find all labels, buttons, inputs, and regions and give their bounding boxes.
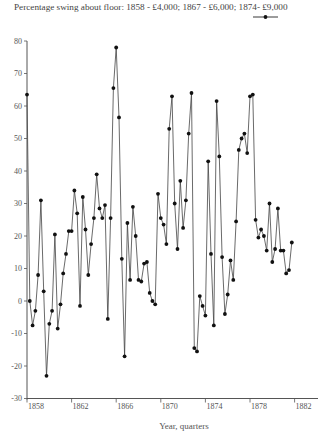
x-tick-label: 1882 — [296, 402, 312, 411]
data-point-marker — [56, 327, 60, 331]
data-point-marker — [226, 293, 230, 297]
data-point-marker — [273, 247, 277, 251]
y-tick-label: -20 — [11, 362, 22, 371]
data-point-marker — [78, 304, 82, 308]
data-point-marker — [220, 255, 224, 259]
data-point-marker — [117, 116, 121, 120]
data-point-marker — [240, 137, 244, 141]
data-point-marker — [36, 273, 40, 277]
data-point-marker — [259, 228, 263, 232]
data-point-marker — [106, 317, 110, 321]
data-point-marker — [184, 198, 188, 202]
data-point-marker — [64, 252, 68, 256]
data-point-marker — [59, 302, 63, 306]
y-tick-label: 30 — [14, 199, 22, 208]
data-point-marker — [112, 86, 116, 90]
data-point-marker — [231, 278, 235, 282]
data-point-marker — [282, 249, 286, 253]
y-tick-label: -30 — [11, 394, 22, 403]
data-point-marker — [237, 148, 241, 152]
data-point-marker — [268, 202, 272, 206]
data-point-marker — [42, 289, 46, 293]
data-point-marker — [50, 309, 54, 313]
data-point-marker — [190, 91, 194, 95]
data-point-marker — [162, 223, 166, 227]
data-point-marker — [128, 278, 132, 282]
data-point-marker — [284, 272, 288, 276]
x-tick-label: 1866 — [117, 402, 133, 411]
data-point-marker — [139, 280, 143, 284]
data-point-marker — [206, 159, 210, 163]
data-point-marker — [145, 260, 149, 264]
data-point-marker — [100, 216, 104, 220]
data-point-marker — [131, 205, 135, 209]
x-tick-label: 1870 — [162, 402, 178, 411]
x-axis-label: Year, quarters — [0, 421, 328, 431]
data-point-marker — [70, 229, 74, 233]
data-point-marker — [170, 94, 174, 98]
data-point-marker — [156, 192, 160, 196]
data-point-marker — [234, 220, 238, 224]
data-point-marker — [84, 228, 88, 232]
data-point-marker — [265, 249, 269, 253]
data-point-marker — [251, 93, 255, 97]
data-point-marker — [243, 132, 247, 136]
y-tick-label: 40 — [14, 167, 22, 176]
data-point-marker — [73, 189, 77, 193]
data-point-marker — [181, 226, 185, 230]
line-chart: -30-20-100102030405060708018581862186618… — [0, 0, 328, 444]
data-point-marker — [153, 302, 157, 306]
data-point-marker — [31, 324, 35, 328]
x-tick-label: 1862 — [73, 402, 89, 411]
y-tick-label: 50 — [14, 134, 22, 143]
data-point-marker — [151, 299, 155, 303]
data-point-marker — [89, 242, 93, 246]
data-point-marker — [103, 203, 107, 207]
data-point-marker — [290, 241, 294, 245]
data-point-marker — [223, 312, 227, 316]
legend — [253, 15, 278, 19]
data-point-marker — [86, 273, 90, 277]
plot-area — [25, 46, 294, 378]
y-tick-label: 0 — [18, 297, 22, 306]
y-tick-label: 70 — [14, 69, 22, 78]
series-line — [27, 48, 292, 376]
data-point-marker — [126, 221, 130, 225]
data-point-marker — [254, 218, 258, 222]
data-point-marker — [61, 272, 65, 276]
data-point-marker — [114, 46, 118, 50]
data-point-marker — [109, 216, 113, 220]
data-point-marker — [120, 257, 124, 261]
y-tick-label: 10 — [14, 264, 22, 273]
data-point-marker — [192, 346, 196, 350]
y-tick-label: 80 — [14, 37, 22, 46]
data-point-marker — [287, 268, 291, 272]
data-point-marker — [262, 234, 266, 238]
data-point-marker — [217, 155, 221, 159]
data-point-marker — [167, 127, 171, 131]
data-point-marker — [123, 354, 127, 358]
data-point-marker — [39, 198, 43, 202]
data-point-marker — [187, 132, 191, 136]
data-point-marker — [53, 233, 57, 237]
data-point-marker — [148, 291, 152, 295]
data-point-marker — [270, 260, 274, 264]
data-point-marker — [95, 172, 99, 176]
data-point-marker — [215, 99, 219, 103]
data-point-marker — [98, 207, 102, 211]
data-point-marker — [28, 299, 32, 303]
data-point-marker — [81, 195, 85, 199]
x-tick-label: 1878 — [251, 402, 267, 411]
data-point-marker — [134, 234, 138, 238]
data-point-marker — [159, 216, 163, 220]
x-tick-label: 1874 — [206, 402, 222, 411]
x-tick-label: 1858 — [28, 402, 44, 411]
data-point-marker — [178, 179, 182, 183]
data-point-marker — [204, 314, 208, 318]
data-point-marker — [257, 236, 261, 240]
data-point-marker — [75, 211, 79, 215]
y-tick-label: -10 — [11, 329, 22, 338]
data-point-marker — [47, 322, 51, 326]
data-point-marker — [195, 350, 199, 354]
y-tick-label: 60 — [14, 102, 22, 111]
